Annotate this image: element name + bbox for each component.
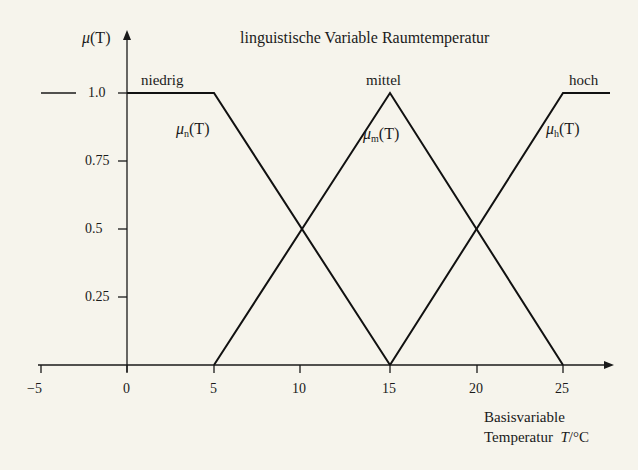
x-axis-label-line2: Temperatur T/°C	[484, 430, 589, 445]
term-label-hoch: hoch	[569, 73, 598, 88]
y-axis-label: μ(T)	[82, 30, 110, 46]
term-label-niedrig: niedrig	[141, 73, 184, 88]
x-tick-label: 10	[292, 382, 306, 396]
x-axis-quantity: Temperatur	[484, 429, 553, 445]
x-axis-variable: T	[560, 429, 568, 445]
x-tick-label: 25	[555, 382, 569, 396]
y-tick-label: 1.0	[88, 86, 106, 100]
y-tick-label: 0.75	[85, 154, 110, 168]
y-ticks	[118, 93, 127, 297]
y-tick-label: 0.25	[85, 290, 110, 304]
y-tick-label: 0.5	[85, 222, 103, 236]
y-axis-arg: (T)	[90, 29, 110, 46]
function-arg: (T)	[379, 125, 399, 142]
subscript: m	[371, 133, 379, 144]
function-label-mu-m: μm(T)	[363, 126, 399, 144]
mu-symbol: μ	[82, 29, 90, 46]
chart-title: linguistische Variable Raumtemperatur	[240, 30, 489, 46]
term-label-mittel: mittel	[366, 73, 401, 88]
mu-symbol: μ	[176, 120, 184, 137]
mu-symbol: μ	[363, 125, 371, 142]
function-label-mu-n: μn(T)	[176, 121, 209, 139]
y-axis-arrow-icon	[123, 30, 131, 40]
x-tick-label: 0	[123, 382, 130, 396]
x-tick-label: 20	[469, 382, 483, 396]
x-tick-label: 15	[382, 382, 396, 396]
mu-niedrig-curve	[127, 93, 390, 365]
x-tick-label: −5	[27, 382, 42, 396]
mu-symbol: μ	[546, 120, 554, 137]
x-axis-label-line1: Basisvariable	[484, 410, 565, 425]
x-ticks	[41, 365, 563, 373]
function-arg: (T)	[559, 120, 579, 137]
x-axis-unit: /°C	[569, 429, 589, 445]
x-tick-label: 5	[210, 382, 217, 396]
function-label-mu-h: μh(T)	[546, 121, 579, 139]
x-axis-arrow-icon	[604, 361, 614, 369]
function-arg: (T)	[189, 120, 209, 137]
